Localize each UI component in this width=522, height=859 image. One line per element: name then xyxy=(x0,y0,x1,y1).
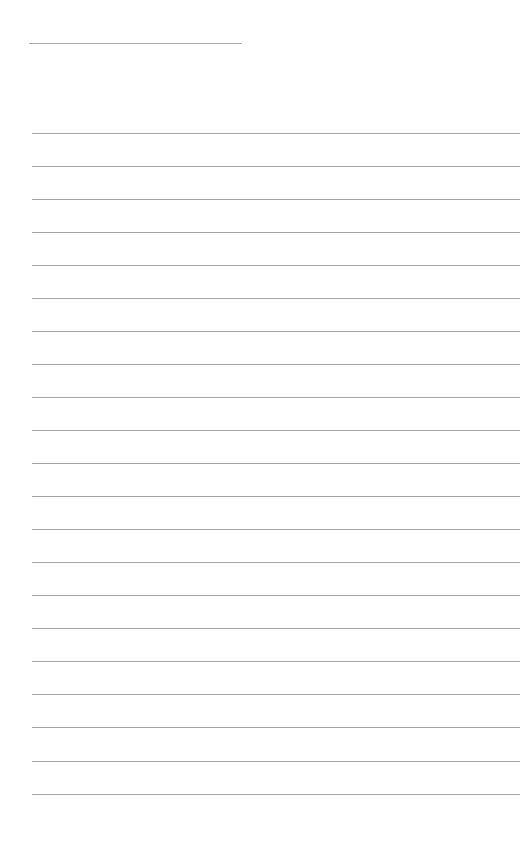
rule-line xyxy=(32,265,520,266)
rule-line xyxy=(32,298,520,299)
rule-line xyxy=(32,232,520,233)
rule-line xyxy=(32,397,520,398)
rule-line xyxy=(32,661,520,662)
rule-line xyxy=(32,727,520,728)
rule-line xyxy=(32,628,520,629)
rule-line xyxy=(32,562,520,563)
rule-line xyxy=(32,761,520,762)
rule-line xyxy=(32,199,520,200)
header-rule-line xyxy=(29,43,242,44)
rule-line xyxy=(32,430,520,431)
rule-line xyxy=(32,166,520,167)
rule-line xyxy=(32,529,520,530)
rule-line xyxy=(32,496,520,497)
rule-line xyxy=(32,364,520,365)
rule-line xyxy=(32,595,520,596)
rule-line xyxy=(32,794,520,795)
rule-line xyxy=(32,694,520,695)
ruled-page xyxy=(0,0,522,859)
rule-line xyxy=(32,463,520,464)
rule-line xyxy=(32,331,520,332)
rule-line xyxy=(32,133,520,134)
